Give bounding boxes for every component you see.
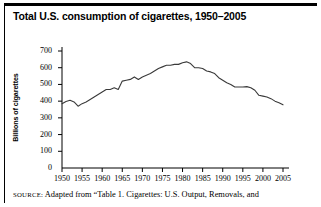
figure-container: Total U.S. consumption of cigarettes, 19… <box>0 0 321 207</box>
y-tick-label: 400 <box>26 96 52 105</box>
y-tick-label: 700 <box>26 46 52 55</box>
y-tick-label: 500 <box>26 79 52 88</box>
source-label: SOURCE: <box>13 191 43 198</box>
source-text: Adapted from “Table 1. Cigarettes: U.S. … <box>43 190 259 199</box>
plot-area: Billions of cigarettes 01002003004005006… <box>0 0 321 207</box>
y-tick-label: 600 <box>26 63 52 72</box>
y-tick-label: 200 <box>26 130 52 139</box>
y-tick-label: 300 <box>26 113 52 122</box>
x-tick-label: 2005 <box>268 174 298 183</box>
source-note: SOURCE: Adapted from “Table 1. Cigarette… <box>13 190 317 199</box>
y-tick-label: 100 <box>26 146 52 155</box>
y-tick-label: 0 <box>26 163 52 172</box>
